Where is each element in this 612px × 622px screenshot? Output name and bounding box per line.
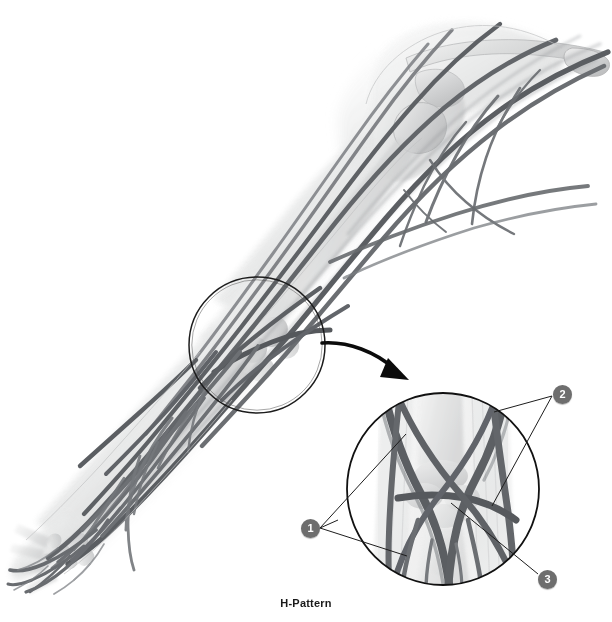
anatomical-figure: 1 2 3 H-Pattern — [0, 0, 612, 622]
callout-badge-1[interactable]: 1 — [301, 519, 320, 538]
callout-badge-3[interactable]: 3 — [538, 570, 557, 589]
figure-caption: H-Pattern — [0, 597, 612, 609]
callout-badge-2[interactable]: 2 — [553, 385, 572, 404]
